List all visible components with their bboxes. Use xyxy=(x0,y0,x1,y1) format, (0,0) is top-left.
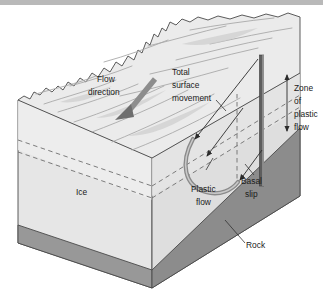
label-ice: Ice xyxy=(76,187,88,197)
basal-slip-line1: Basal xyxy=(241,176,262,186)
total-surface-movement-line2: surface xyxy=(172,80,200,90)
plastic-flow-line2: flow xyxy=(196,197,212,207)
label-rock: Rock xyxy=(246,240,266,250)
vertical-borehole-group xyxy=(260,55,264,186)
total-surface-movement-line3: movement xyxy=(172,93,212,103)
plastic-flow-line1: Plastic xyxy=(191,184,216,194)
zone-of-plastic-flow-line2: of xyxy=(294,96,302,106)
figure-root: Flow direction Total surface movement Zo… xyxy=(0,0,333,307)
zone-of-plastic-flow-line3: plastic xyxy=(294,109,318,119)
zone-of-plastic-flow-line4: flow xyxy=(294,122,310,132)
basal-slip-line2: slip xyxy=(245,189,258,199)
zone-of-plastic-flow-line1: Zone xyxy=(294,83,313,93)
total-surface-movement-line1: Total xyxy=(172,67,190,77)
flow-direction-line2: direction xyxy=(88,87,120,97)
vertical-borehole-highlight xyxy=(262,55,263,186)
flow-direction-line1: Flow xyxy=(97,74,116,84)
glacier-block-diagram: Flow direction Total surface movement Zo… xyxy=(0,0,333,307)
